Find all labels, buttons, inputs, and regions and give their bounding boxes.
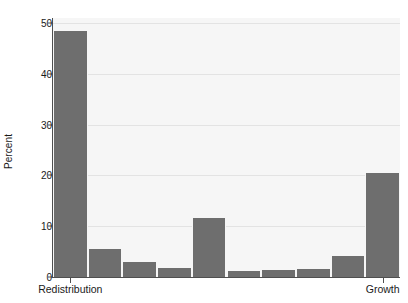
plot-area [53,18,400,277]
bar [122,262,157,277]
bar [365,173,400,277]
gridline-30 [53,125,400,126]
bar [88,249,123,277]
histogram-figure: Percent 01020304050 RedistributionGrowth [0,0,408,303]
y-tick-label: 20 [41,170,52,181]
bar [192,218,227,277]
y-tick-label: 40 [41,68,52,79]
x-tick-label: Growth [366,283,400,295]
plot-background [53,18,400,277]
y-tick-label: 10 [41,221,52,232]
bar [296,269,331,277]
bar [261,270,296,277]
gridline-40 [53,74,400,75]
bar [53,31,88,277]
bar [157,268,192,277]
gridline-20 [53,175,400,176]
bar [227,271,262,277]
x-tick-label: Redistribution [38,283,102,295]
y-tick-label: 50 [41,18,52,29]
x-axis-spine [52,277,400,278]
gridline-50 [53,23,400,24]
gridline-10 [53,226,400,227]
y-axis-title: Percent [0,0,16,303]
bar [331,256,366,277]
y-tick-label: 30 [41,119,52,130]
clipped-caption [0,297,408,303]
